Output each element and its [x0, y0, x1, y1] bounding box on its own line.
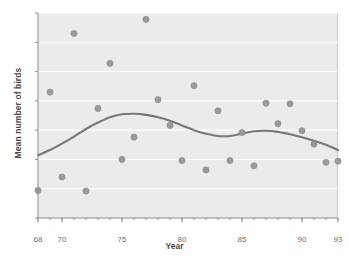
data-point	[227, 158, 233, 164]
data-point	[239, 129, 245, 135]
x-tick-label: 85	[238, 235, 247, 244]
x-tick-label: 75	[118, 235, 127, 244]
data-point	[47, 89, 53, 95]
trend-line	[38, 114, 338, 156]
data-point	[275, 121, 281, 127]
data-point	[107, 60, 113, 66]
data-point	[143, 16, 149, 22]
gridlines	[38, 13, 338, 189]
scatter-points	[35, 16, 341, 194]
data-point	[215, 108, 221, 114]
data-point	[83, 188, 89, 194]
x-tick-label: 90	[298, 235, 307, 244]
data-point	[263, 100, 269, 106]
data-point	[167, 122, 173, 128]
data-point	[71, 30, 77, 36]
plot-area: 00.51.01.52.02.53.03.5 68707580859093	[38, 13, 338, 218]
plot-canvas	[38, 13, 338, 218]
x-tick-label: 70	[58, 235, 67, 244]
data-point	[95, 105, 101, 111]
x-tick-label: 80	[178, 235, 187, 244]
data-point	[191, 83, 197, 89]
chart-figure: Mean number of birds Year 00.51.01.52.02…	[0, 0, 349, 260]
data-point	[179, 158, 185, 164]
data-point	[119, 156, 125, 162]
data-point	[323, 159, 329, 165]
data-point	[299, 128, 305, 134]
y-axis-title: Mean number of birds	[13, 43, 23, 183]
x-axis-major-ticks	[38, 218, 338, 223]
data-point	[335, 158, 341, 164]
x-tick-label: 68	[34, 235, 43, 244]
data-point	[131, 134, 137, 140]
data-point	[155, 97, 161, 103]
data-point	[311, 141, 317, 147]
data-point	[251, 163, 257, 169]
data-point	[287, 101, 293, 107]
data-point	[59, 174, 65, 180]
x-tick-label: 93	[334, 235, 343, 244]
data-point	[203, 167, 209, 173]
